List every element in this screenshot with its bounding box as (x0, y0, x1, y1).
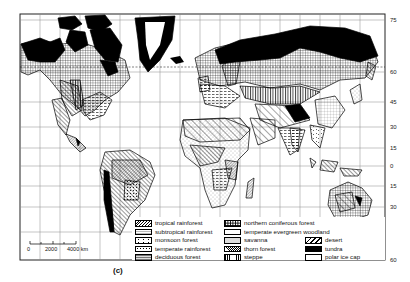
swatch-tundra (305, 246, 322, 253)
lat-label: 45 (390, 99, 397, 105)
legend-label: desert (325, 236, 342, 245)
swatch-polar-ice-cap (305, 254, 322, 261)
scale-label: 0 (27, 246, 30, 252)
legend-item: deciduous forest (135, 253, 212, 262)
lat-label: 30 (390, 124, 397, 130)
legend-label: temperate evergreen woodland (244, 228, 330, 237)
legend-item: temperate rainforest (135, 245, 212, 254)
legend-item: tropical rainforest (135, 219, 212, 228)
figure-caption: (c) (113, 266, 123, 275)
legend-label: subtropical rainforest (155, 228, 212, 237)
swatch-desert (305, 237, 322, 244)
legend-label: temperate rainforest (155, 245, 210, 254)
legend-label: deciduous forest (155, 253, 200, 262)
legend-item: desert (305, 236, 360, 245)
legend-item: monsoon forest (135, 236, 212, 245)
legend-label: northern coniferous forest (244, 219, 315, 228)
legend-item: northern coniferous forest (224, 219, 330, 228)
scale-label: 4000 km (67, 246, 88, 252)
legend-item: tundra (305, 245, 360, 254)
legend-label: tropical rainforest (155, 219, 202, 228)
swatch-thorn-forest (224, 246, 241, 253)
legend-label: monsoon forest (155, 236, 198, 245)
legend-column-1: tropical rainforest subtropical rainfore… (135, 219, 212, 262)
swatch-northern-coniferous-forest (224, 220, 241, 227)
swatch-steppe (224, 254, 241, 261)
swatch-temperate-evergreen-woodland (224, 229, 241, 236)
swatch-temperate-rainforest (135, 246, 152, 253)
lat-label: 75 (390, 17, 397, 23)
swatch-tropical-rainforest (135, 220, 152, 227)
lat-label: 0 (390, 163, 393, 169)
scale-label: 2000 (45, 246, 57, 252)
lat-label: 15 (390, 145, 397, 151)
legend-label: tundra (325, 245, 343, 254)
legend-item: temperate evergreen woodland (224, 228, 330, 237)
legend-item: subtropical rainforest (135, 228, 212, 237)
legend-item: polar ice cap (305, 253, 360, 262)
legend-label: polar ice cap (325, 253, 360, 262)
legend-label: savanna (244, 236, 267, 245)
legend-column-3: desert tundra polar ice cap (305, 236, 360, 262)
lat-label: 60 (390, 257, 397, 263)
lat-label: 15 (390, 183, 397, 189)
lat-label: 60 (390, 69, 397, 75)
swatch-savanna (224, 237, 241, 244)
swatch-monsoon-forest (135, 237, 152, 244)
swatch-deciduous-forest (135, 254, 152, 261)
swatch-subtropical-rainforest (135, 229, 152, 236)
legend-label: steppe (244, 253, 263, 262)
lat-label: 30 (390, 204, 397, 210)
legend-label: thorn forest (244, 245, 275, 254)
